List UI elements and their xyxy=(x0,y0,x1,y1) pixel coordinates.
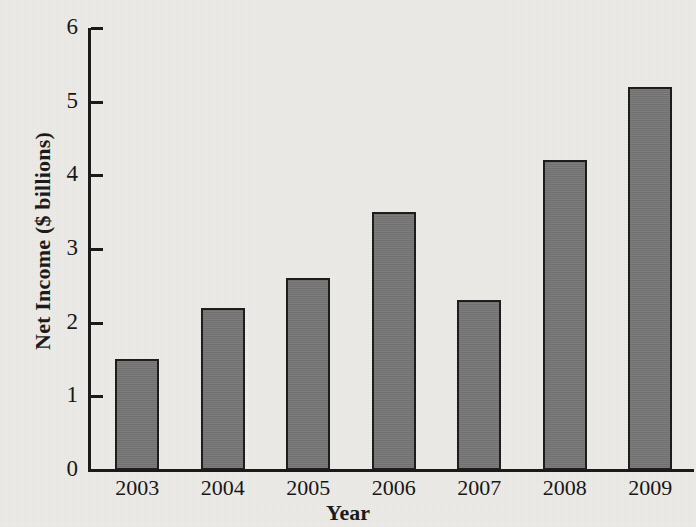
y-axis-tick xyxy=(91,395,103,398)
bar-chart: 0123456 2003200420052006200720082009 Net… xyxy=(0,0,696,527)
x-axis-tick-label: 2003 xyxy=(92,477,182,499)
x-axis-tick-label: 2007 xyxy=(434,477,524,499)
bar xyxy=(115,359,159,470)
y-axis-tick xyxy=(91,27,103,30)
bar xyxy=(628,87,672,470)
x-axis-tick-label: 2009 xyxy=(605,477,695,499)
y-axis-tick xyxy=(91,174,103,177)
y-axis-title: Net Income ($ billions) xyxy=(30,91,56,391)
x-axis-tick-label: 2004 xyxy=(178,477,268,499)
y-axis-tick xyxy=(91,469,103,472)
x-axis-tick-label: 2005 xyxy=(263,477,353,499)
bar xyxy=(286,278,330,470)
bar xyxy=(457,300,501,470)
y-axis-tick-label: 0 xyxy=(38,457,78,480)
bar xyxy=(201,308,245,470)
x-axis-tick-label: 2008 xyxy=(520,477,610,499)
bar xyxy=(372,212,416,470)
x-axis-tick-label: 2006 xyxy=(349,477,439,499)
y-axis-tick xyxy=(91,322,103,325)
x-axis-title: Year xyxy=(0,500,696,526)
bar xyxy=(543,160,587,470)
y-axis-tick xyxy=(91,101,103,104)
y-axis-tick-label: 6 xyxy=(38,15,78,38)
y-axis-tick xyxy=(91,248,103,251)
